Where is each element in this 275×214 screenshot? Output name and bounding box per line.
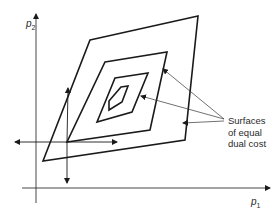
contour-inner — [109, 86, 128, 110]
annotation-line-3: dual cost — [228, 138, 266, 150]
contour-second — [67, 52, 167, 142]
annotation-line-1: Surfaces — [228, 115, 266, 127]
x-axis-subscript: 1 — [257, 202, 261, 209]
dual-cost-diagram — [0, 0, 275, 214]
annotation-line-2: of equal — [228, 127, 266, 139]
y-axis-label: p2 — [26, 18, 35, 31]
annotation-label: Surfaces of equal dual cost — [228, 115, 266, 150]
y-axis-subscript: 2 — [32, 24, 36, 31]
arrow-up — [67, 88, 68, 142]
contour-third — [97, 73, 148, 122]
pointer-arrow-lower — [183, 121, 224, 123]
x-axis-label: p1 — [251, 196, 260, 209]
pointer-arrow-outer — [163, 69, 224, 119]
